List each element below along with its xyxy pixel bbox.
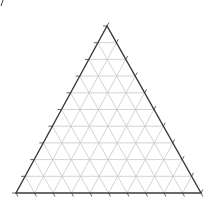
gridline-parallel-left-edge [35, 43, 117, 193]
ternary-diagram [0, 0, 207, 203]
gridline-parallel-right-edge [98, 43, 183, 193]
gridline-parallel-left-edge [109, 110, 155, 194]
gridline-parallel-right-edge [62, 110, 109, 194]
gridline-parallel-left-edge [72, 76, 136, 193]
corner-artifact-stroke [1, 0, 3, 6]
gridline-parallel-right-edge [80, 76, 146, 193]
gridline-parallel-right-edge [25, 176, 34, 193]
ternary-gridlines [25, 43, 192, 193]
gridline-parallel-left-edge [183, 176, 192, 193]
